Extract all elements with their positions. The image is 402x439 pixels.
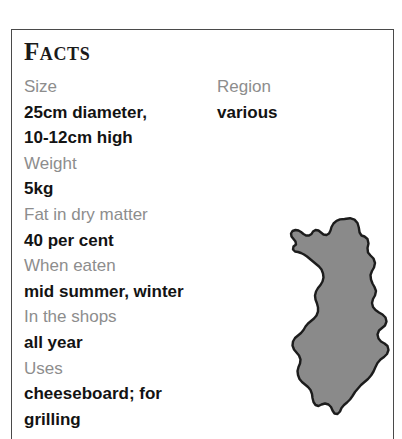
facts-panel: Facts Size 25cm diameter, 10-12cm high W… bbox=[11, 29, 394, 439]
facts-right-column: Region various bbox=[217, 74, 387, 125]
fact-entry-in-the-shops: In the shops all year bbox=[24, 304, 220, 355]
facts-left-column: Size 25cm diameter, 10-12cm high Weight … bbox=[24, 74, 220, 432]
fact-value-size: 25cm diameter, 10-12cm high bbox=[24, 100, 220, 151]
fact-label-uses: Uses bbox=[24, 356, 220, 382]
fact-label-fat-in-dry-matter: Fat in dry matter bbox=[24, 202, 220, 228]
fact-entry-region: Region various bbox=[217, 74, 387, 125]
fact-value-when-eaten: mid summer, winter bbox=[24, 279, 220, 305]
fact-value-region: various bbox=[217, 100, 387, 126]
page-title: Facts bbox=[24, 39, 90, 64]
fact-label-when-eaten: When eaten bbox=[24, 253, 220, 279]
fact-entry-fat-in-dry-matter: Fat in dry matter 40 per cent bbox=[24, 202, 220, 253]
fact-label-in-the-shops: In the shops bbox=[24, 304, 220, 330]
fact-entry-size: Size 25cm diameter, 10-12cm high bbox=[24, 74, 220, 151]
fact-label-weight: Weight bbox=[24, 151, 220, 177]
fact-value-in-the-shops: all year bbox=[24, 330, 220, 356]
fact-label-size: Size bbox=[24, 74, 220, 100]
fact-label-region: Region bbox=[217, 74, 387, 100]
fact-value-fat-in-dry-matter: 40 per cent bbox=[24, 228, 220, 254]
fact-value-weight: 5kg bbox=[24, 176, 220, 202]
fact-entry-uses: Uses cheeseboard; for grilling bbox=[24, 356, 220, 433]
fact-entry-weight: Weight 5kg bbox=[24, 151, 220, 202]
finland-map-icon bbox=[284, 213, 396, 421]
fact-entry-when-eaten: When eaten mid summer, winter bbox=[24, 253, 220, 304]
fact-value-uses: cheeseboard; for grilling bbox=[24, 381, 220, 432]
